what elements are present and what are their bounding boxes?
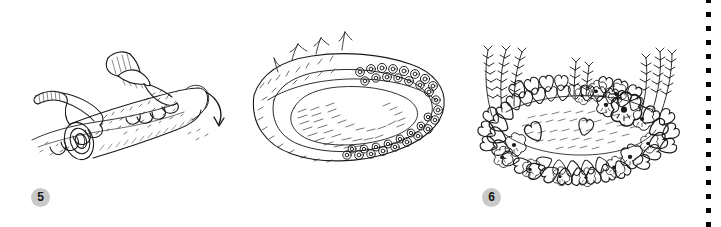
panel-step-5: 5 xyxy=(0,0,232,227)
panel-step-6: 6 xyxy=(232,0,456,227)
illustration-page: 5 xyxy=(0,0,721,227)
step-badge-5: 5 xyxy=(31,188,50,207)
panel-step-7: 7 xyxy=(456,0,696,227)
mature-flower-bed-illustration xyxy=(456,0,696,190)
planting-bed-illustration xyxy=(232,0,456,190)
dotted-vertical-rule xyxy=(706,0,711,227)
sod-unrolling-illustration xyxy=(0,0,232,190)
